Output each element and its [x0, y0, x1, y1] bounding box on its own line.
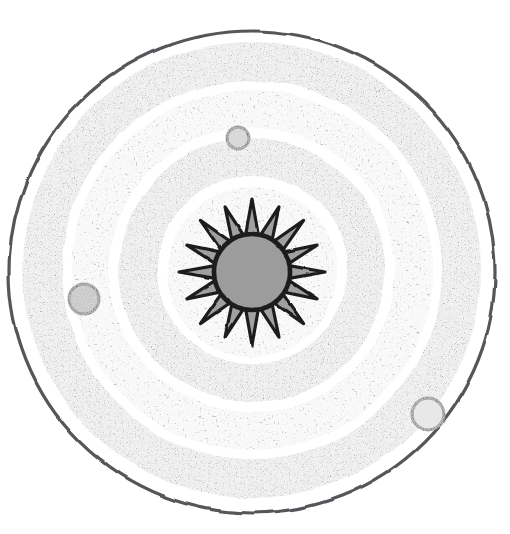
- orrery-illustration: Heliocentric Orrery Woodcut Hand-drawn w…: [0, 0, 510, 534]
- artboard: Heliocentric Orrery Woodcut Hand-drawn w…: [0, 0, 510, 534]
- sun-core: [214, 234, 290, 310]
- planet-top: inner planet: [227, 127, 249, 149]
- planet-bottom-right: outer planet: [412, 398, 444, 430]
- planet-left: middle planet: [69, 284, 99, 314]
- sun: [179, 199, 325, 345]
